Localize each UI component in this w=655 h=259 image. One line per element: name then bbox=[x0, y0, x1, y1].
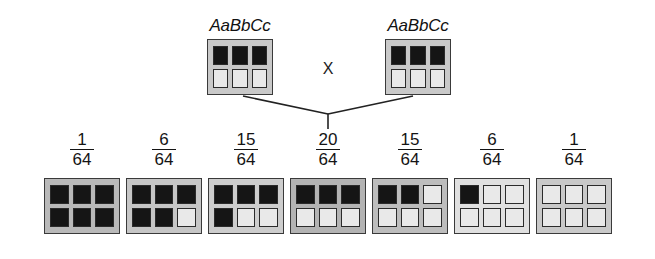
allele-square-filled bbox=[237, 185, 256, 204]
allele-square-empty bbox=[296, 208, 315, 227]
offspring-fraction: 1 64 bbox=[562, 131, 587, 169]
allele-square-filled bbox=[132, 185, 151, 204]
allele-square-empty bbox=[237, 208, 256, 227]
offspring-group: 1 64 bbox=[536, 131, 612, 234]
allele-square-empty bbox=[542, 208, 561, 227]
fraction-numerator: 20 bbox=[316, 131, 341, 149]
offspring-distribution-row: 1 64 6 64 bbox=[44, 131, 612, 234]
allele-square-empty bbox=[460, 208, 479, 227]
allele-square-empty bbox=[177, 208, 196, 227]
allele-square-empty bbox=[232, 69, 247, 88]
allele-square-filled bbox=[460, 185, 479, 204]
fraction-denominator: 64 bbox=[152, 149, 177, 169]
fraction-numerator: 1 bbox=[562, 131, 587, 149]
allele-square-empty bbox=[401, 208, 420, 227]
allele-square-empty bbox=[587, 185, 606, 204]
allele-square-filled bbox=[401, 185, 420, 204]
allele-square-empty bbox=[505, 208, 524, 227]
polygenic-cross-diagram: AaBbCc X AaBbCc 1 bbox=[0, 0, 655, 259]
offspring-group: 15 64 bbox=[372, 131, 448, 234]
parent-right-allele-box bbox=[385, 39, 451, 95]
allele-square-empty bbox=[319, 208, 338, 227]
allele-square-empty bbox=[410, 69, 425, 88]
allele-square-filled bbox=[214, 185, 233, 204]
allele-square-empty bbox=[423, 208, 442, 227]
offspring-fraction: 15 64 bbox=[398, 131, 423, 169]
allele-square-filled bbox=[155, 185, 174, 204]
offspring-fraction: 15 64 bbox=[234, 131, 259, 169]
allele-square-filled bbox=[214, 208, 233, 227]
offspring-fraction: 6 64 bbox=[480, 131, 505, 169]
parent-right: AaBbCc bbox=[385, 16, 451, 95]
allele-square-empty bbox=[505, 185, 524, 204]
allele-square-filled bbox=[155, 208, 174, 227]
fraction-denominator: 64 bbox=[70, 149, 95, 169]
parent-left-genotype-label: AaBbCc bbox=[207, 16, 273, 36]
allele-square-filled bbox=[296, 185, 315, 204]
parent-right-genotype-label: AaBbCc bbox=[385, 16, 451, 36]
offspring-group: 20 64 bbox=[290, 131, 366, 234]
fraction-denominator: 64 bbox=[234, 149, 259, 169]
allele-square-filled bbox=[95, 208, 114, 227]
allele-square-filled bbox=[259, 185, 278, 204]
allele-square-empty bbox=[259, 208, 278, 227]
fraction-numerator: 15 bbox=[398, 131, 423, 149]
allele-square-empty bbox=[565, 185, 584, 204]
offspring-group: 6 64 bbox=[126, 131, 202, 234]
allele-square-empty bbox=[391, 69, 406, 88]
offspring-allele-box bbox=[372, 178, 448, 234]
allele-square-filled bbox=[177, 185, 196, 204]
allele-square-filled bbox=[95, 185, 114, 204]
allele-square-filled bbox=[232, 46, 247, 65]
cross-symbol: X bbox=[320, 60, 336, 78]
offspring-fraction: 20 64 bbox=[316, 131, 341, 169]
allele-square-filled bbox=[73, 185, 92, 204]
offspring-group: 6 64 bbox=[454, 131, 530, 234]
allele-square-empty bbox=[378, 208, 397, 227]
offspring-allele-box bbox=[454, 178, 530, 234]
offspring-allele-box bbox=[290, 178, 366, 234]
allele-square-filled bbox=[50, 185, 69, 204]
allele-square-filled bbox=[252, 46, 267, 65]
allele-square-filled bbox=[378, 185, 397, 204]
fraction-denominator: 64 bbox=[562, 149, 587, 169]
offspring-allele-box bbox=[126, 178, 202, 234]
fraction-denominator: 64 bbox=[480, 149, 505, 169]
fraction-numerator: 1 bbox=[70, 131, 95, 149]
fraction-numerator: 6 bbox=[480, 131, 505, 149]
allele-square-filled bbox=[391, 46, 406, 65]
offspring-allele-box bbox=[208, 178, 284, 234]
parent-left-allele-box bbox=[207, 39, 273, 95]
offspring-allele-box bbox=[44, 178, 120, 234]
allele-square-empty bbox=[587, 208, 606, 227]
allele-square-empty bbox=[565, 208, 584, 227]
offspring-group: 15 64 bbox=[208, 131, 284, 234]
allele-square-filled bbox=[410, 46, 425, 65]
offspring-fraction: 1 64 bbox=[70, 131, 95, 169]
offspring-fraction: 6 64 bbox=[152, 131, 177, 169]
allele-square-empty bbox=[341, 208, 360, 227]
allele-square-empty bbox=[483, 208, 502, 227]
fraction-numerator: 15 bbox=[234, 131, 259, 149]
allele-square-filled bbox=[213, 46, 228, 65]
allele-square-filled bbox=[73, 208, 92, 227]
fraction-denominator: 64 bbox=[398, 149, 423, 169]
offspring-allele-box bbox=[536, 178, 612, 234]
fraction-denominator: 64 bbox=[316, 149, 341, 169]
parent-left: AaBbCc bbox=[207, 16, 273, 95]
allele-square-empty bbox=[430, 69, 445, 88]
allele-square-empty bbox=[423, 185, 442, 204]
allele-square-empty bbox=[542, 185, 561, 204]
allele-square-filled bbox=[341, 185, 360, 204]
allele-square-filled bbox=[50, 208, 69, 227]
allele-square-filled bbox=[319, 185, 338, 204]
allele-square-filled bbox=[132, 208, 151, 227]
allele-square-empty bbox=[252, 69, 267, 88]
allele-square-empty bbox=[483, 185, 502, 204]
allele-square-filled bbox=[430, 46, 445, 65]
offspring-group: 1 64 bbox=[44, 131, 120, 234]
fraction-numerator: 6 bbox=[152, 131, 177, 149]
allele-square-empty bbox=[213, 69, 228, 88]
